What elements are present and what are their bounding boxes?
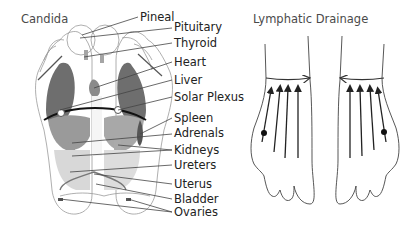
lymphatic-drainage-diagram: Lymphatic Drainage — [251, 12, 399, 204]
label-ovaries: Ovaries — [174, 205, 218, 219]
label-bladder: Bladder — [174, 192, 219, 206]
organ-labels: Pineal Pituitary Thyroid Heart Liver Sol… — [140, 10, 244, 219]
solar-plexus-point-left — [58, 110, 65, 117]
label-thyroid: Thyroid — [173, 36, 217, 50]
label-uterus: Uterus — [174, 177, 212, 191]
label-kidneys: Kidneys — [174, 143, 219, 157]
candida-diagram: Candida — [21, 10, 244, 219]
reflexology-diagram: Candida — [0, 0, 418, 228]
label-ureters: Ureters — [174, 158, 216, 172]
organ-regions — [46, 50, 146, 190]
label-heart: Heart — [174, 55, 206, 69]
label-liver: Liver — [174, 73, 202, 87]
label-pineal: Pineal — [140, 10, 174, 24]
label-spleen: Spleen — [174, 111, 213, 125]
label-solar-plexus: Solar Plexus — [174, 90, 244, 104]
right-foot-dorsal — [336, 36, 399, 204]
candida-title: Candida — [21, 12, 68, 26]
lymphatic-title: Lymphatic Drainage — [253, 12, 368, 26]
left-foot-dorsal — [251, 36, 314, 204]
lymph-point-left — [261, 130, 267, 136]
label-adrenals: Adrenals — [174, 126, 224, 140]
label-pituitary: Pituitary — [174, 20, 222, 34]
lymph-point-right — [381, 129, 387, 135]
